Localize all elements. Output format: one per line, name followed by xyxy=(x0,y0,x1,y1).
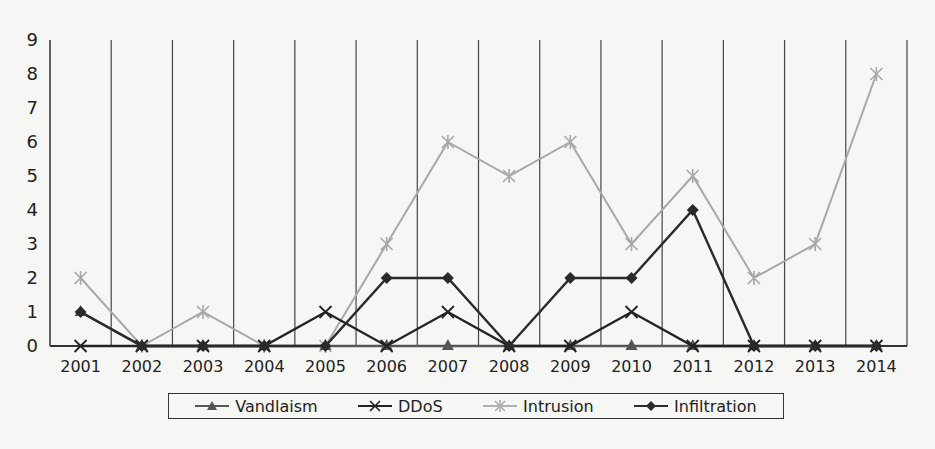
star-marker-icon xyxy=(503,169,515,183)
x-tick-label: 2010 xyxy=(611,357,652,376)
star-marker-icon xyxy=(483,400,517,412)
legend-item-vandalism: Vandlaism xyxy=(195,397,317,416)
x-tick-label: 2013 xyxy=(795,357,836,376)
x-tick-label: 2005 xyxy=(305,357,346,376)
x-tick-label: 2009 xyxy=(550,357,591,376)
legend-label: Infiltration xyxy=(674,397,757,416)
x-marker-icon xyxy=(319,306,331,318)
diamond-marker-icon xyxy=(75,306,87,318)
legend-label: Vandlaism xyxy=(235,397,317,416)
x-tick-label: 2001 xyxy=(60,357,101,376)
x-tick-label: 2012 xyxy=(734,357,775,376)
triangle-marker-icon xyxy=(195,400,229,412)
y-tick-label: 5 xyxy=(27,165,38,186)
y-tick-label: 0 xyxy=(27,335,38,356)
legend: Vandlaism DDoS Intrusion Infiltration xyxy=(168,393,784,419)
x-tick-label: 2004 xyxy=(244,357,285,376)
x-marker-icon xyxy=(358,400,392,412)
star-marker-icon xyxy=(75,271,87,285)
legend-item-intrusion: Intrusion xyxy=(483,397,594,416)
y-tick-label: 6 xyxy=(27,131,38,152)
y-axis: 0123456789 xyxy=(27,29,50,356)
star-marker-icon xyxy=(809,237,821,251)
triangle-marker-icon xyxy=(442,339,454,350)
star-marker-icon xyxy=(381,237,393,251)
y-tick-label: 1 xyxy=(27,301,38,322)
star-marker-icon xyxy=(687,169,699,183)
star-marker-icon xyxy=(626,237,638,251)
legend-item-ddos: DDoS xyxy=(358,397,443,416)
y-tick-label: 3 xyxy=(27,233,38,254)
x-marker-icon xyxy=(442,306,454,318)
x-tick-label: 2008 xyxy=(489,357,530,376)
line-chart: 0123456789 20012002200320042005200620072… xyxy=(0,0,935,449)
y-tick-label: 8 xyxy=(27,63,38,84)
y-tick-label: 4 xyxy=(27,199,38,220)
x-axis: 2001200220032004200520062007200820092010… xyxy=(50,346,907,376)
legend-label: DDoS xyxy=(398,397,443,416)
legend-label: Intrusion xyxy=(523,397,594,416)
triangle-marker-icon xyxy=(626,339,638,350)
x-tick-label: 2014 xyxy=(856,357,897,376)
x-tick-label: 2007 xyxy=(428,357,469,376)
legend-item-infiltration: Infiltration xyxy=(634,397,757,416)
y-tick-label: 7 xyxy=(27,97,38,118)
star-marker-icon xyxy=(442,135,454,149)
diamond-marker-icon xyxy=(634,400,668,412)
x-tick-label: 2002 xyxy=(121,357,162,376)
x-marker-icon xyxy=(626,306,638,318)
star-marker-icon xyxy=(197,305,209,319)
star-marker-icon xyxy=(870,67,882,81)
x-tick-label: 2006 xyxy=(366,357,407,376)
x-tick-label: 2003 xyxy=(183,357,224,376)
vertical-gridlines xyxy=(111,40,907,346)
x-tick-label: 2011 xyxy=(672,357,713,376)
star-marker-icon xyxy=(748,271,760,285)
y-tick-label: 9 xyxy=(27,29,38,50)
star-marker-icon xyxy=(564,135,576,149)
y-tick-label: 2 xyxy=(27,267,38,288)
